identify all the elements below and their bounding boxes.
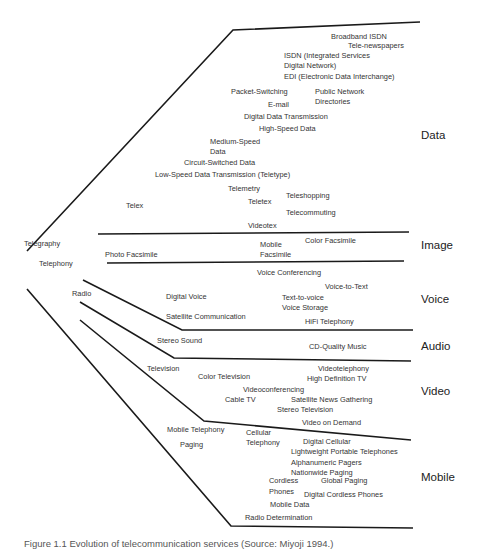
- label-text-to-voice: Text-to-voice: [282, 293, 324, 303]
- label-public-network-2: Directories: [315, 97, 350, 107]
- label-teleshopping: Teleshopping: [286, 191, 330, 201]
- label-color-facsimile: Color Facsimile: [305, 236, 356, 246]
- label-digital-voice: Digital Voice: [166, 292, 207, 302]
- label-photo-facsimile: Photo Facsimile: [105, 250, 158, 260]
- label-high-definition-tv: High Definition TV: [307, 374, 366, 384]
- label-teletex: Teletex: [248, 197, 271, 207]
- category-video: Video: [421, 385, 450, 397]
- label-radio-determination: Radio Determination: [245, 513, 312, 523]
- label-global-paging: Global Paging: [321, 476, 367, 486]
- label-telemetry: Telemetry: [228, 184, 260, 194]
- label-satellite-communication: Satellite Communication: [166, 312, 246, 322]
- root-telex: Telex: [126, 201, 143, 211]
- label-tele-newspapers: Tele-newspapers: [348, 41, 404, 51]
- label-isdn-2: Digital Network): [284, 61, 336, 71]
- root-telegraphy: Telegraphy: [24, 239, 60, 249]
- root-radio: Radio: [72, 289, 91, 299]
- label-digital-data-transmission: Digital Data Transmission: [244, 112, 328, 122]
- root-television: Television: [147, 364, 179, 374]
- label-mobile-data: Mobile Data: [270, 500, 309, 510]
- data-image-divider: [98, 232, 409, 234]
- label-voice-conferencing: Voice Conferencing: [257, 268, 321, 278]
- label-telecommuting: Telecommuting: [286, 208, 336, 218]
- label-edi: EDI (Electronic Data Interchange): [284, 72, 395, 82]
- category-voice: Voice: [421, 293, 449, 305]
- category-image: Image: [421, 239, 453, 251]
- category-data: Data: [421, 129, 445, 141]
- label-hifi-telephony: HiFi Telephony: [305, 317, 354, 327]
- label-mobile-telephony: Mobile Telephony: [167, 425, 224, 435]
- category-mobile: Mobile: [421, 471, 455, 483]
- label-voice-to-text: Voice-to-Text: [325, 282, 368, 292]
- category-audio: Audio: [421, 340, 450, 352]
- label-lightweight-portable-telephones: Lightweight Portable Telephones: [291, 447, 398, 457]
- label-color-television: Color Television: [198, 372, 250, 382]
- label-public-network-1: Public Network: [315, 87, 364, 97]
- label-medium-speed-2: Data: [210, 147, 226, 157]
- label-cordless-1: Cordless: [269, 476, 298, 486]
- image-voice-divider: [107, 261, 404, 263]
- label-videotex: Videotex: [248, 221, 277, 231]
- label-satellite-news-gathering: Satellite News Gathering: [291, 395, 372, 405]
- label-videotelephony: Videotelephony: [318, 364, 369, 374]
- label-voice-storage: Voice Storage: [282, 303, 328, 313]
- label-circuit-switched-data: Circuit-Switched Data: [184, 158, 255, 168]
- label-alphanumeric-pagers: Alphanumeric Pagers: [291, 458, 362, 468]
- label-packet-switching: Packet-Switching: [231, 87, 288, 97]
- audio-video-line: [80, 302, 411, 361]
- label-video-on-demand: Video on Demand: [302, 418, 361, 428]
- label-cordless-2: Phones: [269, 487, 294, 497]
- label-mobile-facsimile-2: Facsimile: [260, 250, 291, 260]
- label-cellular-2: Telephony: [246, 438, 280, 448]
- evolution-lines: [0, 0, 478, 552]
- label-email: E-mail: [268, 100, 289, 110]
- label-high-speed-data: High-Speed Data: [259, 124, 316, 134]
- label-mobile-facsimile-1: Mobile: [260, 240, 282, 250]
- label-low-speed-data: Low-Speed Data Transmission (Teletype): [155, 170, 290, 180]
- label-cable-tv: Cable TV: [225, 395, 256, 405]
- label-stereo-sound: Stereo Sound: [157, 336, 202, 346]
- figure-caption: Figure 1.1 Evolution of telecommunicatio…: [24, 538, 333, 549]
- root-telephony: Telephony: [39, 259, 73, 269]
- label-digital-cordless-phones: Digital Cordless Phones: [304, 490, 383, 500]
- label-cd-quality-music: CD-Quality Music: [309, 342, 367, 352]
- label-stereo-television: Stereo Television: [277, 405, 333, 415]
- label-medium-speed-1: Medium-Speed: [210, 137, 260, 147]
- label-digital-cellular: Digital Cellular: [303, 437, 351, 447]
- label-paging: Paging: [180, 440, 203, 450]
- label-videoconferencing: Videoconferencing: [243, 385, 304, 395]
- label-cellular-1: Cellular: [246, 428, 271, 438]
- label-isdn-1: ISDN (Integrated Services: [284, 51, 370, 61]
